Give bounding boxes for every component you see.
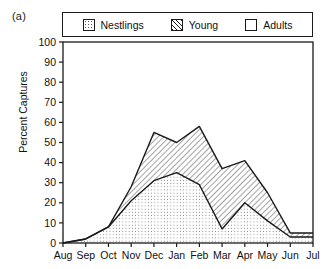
svg-text:100: 100	[38, 36, 56, 48]
svg-text:Aug: Aug	[54, 249, 73, 261]
svg-text:10: 10	[44, 217, 56, 229]
svg-text:May: May	[258, 249, 279, 261]
svg-text:50: 50	[44, 136, 56, 148]
svg-text:Sep: Sep	[76, 249, 95, 261]
svg-text:Feb: Feb	[190, 249, 208, 261]
svg-text:20: 20	[44, 196, 56, 208]
svg-text:80: 80	[44, 76, 56, 88]
chart-svg: 1009080706050403020100AugSepOctNovDecJan…	[0, 0, 330, 269]
chart-panel: (a) Nestlings Young Adults Percent Captu…	[0, 0, 330, 269]
svg-text:70: 70	[44, 96, 56, 108]
svg-text:Jul: Jul	[306, 249, 319, 261]
svg-text:Jun: Jun	[282, 249, 299, 261]
svg-text:Apr: Apr	[237, 249, 254, 261]
svg-text:30: 30	[44, 176, 56, 188]
svg-text:Nov: Nov	[122, 249, 141, 261]
svg-text:0: 0	[50, 237, 56, 249]
plot-area: 1009080706050403020100AugSepOctNovDecJan…	[0, 0, 330, 269]
svg-text:Mar: Mar	[213, 249, 232, 261]
svg-text:Dec: Dec	[145, 249, 164, 261]
svg-text:Oct: Oct	[100, 249, 116, 261]
svg-text:90: 90	[44, 56, 56, 68]
svg-text:Jan: Jan	[168, 249, 185, 261]
svg-text:40: 40	[44, 156, 56, 168]
svg-text:60: 60	[44, 116, 56, 128]
